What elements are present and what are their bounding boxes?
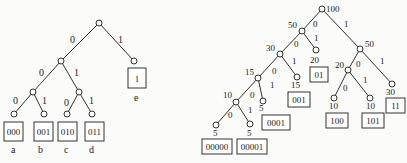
tree-node [277, 51, 283, 57]
edge-label: 1 [89, 95, 94, 106]
edge-label: 1 [42, 95, 47, 106]
weight-label: 100 [326, 4, 340, 14]
weight-label: 50 [288, 20, 298, 30]
edge-label: 0 [39, 67, 44, 78]
code-label: 100 [330, 116, 344, 126]
code-label: 00000 [206, 142, 229, 152]
code-label: 101 [366, 116, 380, 126]
tree-node [319, 6, 325, 12]
edge-label: 0 [313, 19, 318, 29]
tree-node [76, 89, 82, 95]
edge-label: 0 [356, 59, 361, 69]
edge-label: 1 [248, 105, 253, 115]
weight-label: 30 [386, 87, 396, 97]
tree-node [131, 58, 137, 64]
weight-label: 30 [266, 43, 276, 53]
weight-label: 15 [291, 80, 301, 90]
edge-label: 0 [294, 39, 299, 49]
weight-label: 20 [335, 60, 345, 70]
tree-node [299, 28, 305, 34]
edge-label: 0 [13, 95, 18, 106]
code-label: 0001 [267, 118, 285, 128]
weight-label: 5 [247, 128, 252, 138]
tree-node [89, 111, 95, 117]
tree-node [58, 58, 64, 64]
code-label: 001 [292, 95, 306, 105]
huffman-diagram: 0 1 0 1 0 1 0 1 000 a 001 b 010 c 011 d … [0, 0, 407, 163]
weight-label: 10 [366, 101, 376, 111]
edge-label: 1 [270, 80, 275, 90]
edge-label: 0 [228, 110, 233, 120]
tree-node [247, 121, 253, 127]
code-label: 00001 [241, 142, 264, 152]
tree-node [11, 111, 17, 117]
symbol-label: d [89, 144, 94, 155]
tree-node [313, 47, 319, 53]
edge-label: 0 [250, 90, 255, 100]
edge-label: 1 [118, 34, 123, 45]
edge-label: 0 [70, 34, 75, 45]
code-label: 11 [391, 101, 400, 111]
code-label: 011 [88, 127, 101, 137]
code-label: 010 [61, 127, 75, 137]
tree-node [30, 89, 36, 95]
tree-node [64, 111, 70, 117]
weight-label: 50 [365, 39, 375, 49]
code-label: 1 [135, 74, 140, 84]
symbol-label: b [38, 144, 43, 155]
weight-label: 10 [329, 101, 339, 111]
code-label: 001 [37, 127, 51, 137]
edge-label: 1 [344, 19, 349, 29]
edge-label: 0 [343, 83, 348, 93]
symbol-label: c [64, 144, 69, 155]
edge-label: 1 [74, 67, 79, 78]
left-tree: 0 1 0 1 0 1 0 1 000 a 001 b 010 c 011 d … [4, 20, 146, 155]
code-label: 000 [7, 127, 21, 137]
tree-node [357, 46, 363, 52]
edge-label: 0 [272, 66, 277, 76]
edge-label: 0 [64, 97, 69, 108]
symbol-label: e [134, 92, 139, 103]
code-label: 01 [315, 70, 324, 80]
weight-label: 20 [310, 55, 320, 65]
symbol-label: a [11, 144, 16, 155]
weight-label: 5 [213, 128, 218, 138]
edge-label: 1 [363, 75, 368, 85]
right-tree: 100 50 50 30 20 15 15 10 5 5 5 20 10 10 … [202, 4, 405, 154]
edge-label: 1 [292, 56, 297, 66]
tree-node [345, 67, 351, 73]
tree-node [233, 99, 239, 105]
tree-node [96, 20, 102, 26]
tree-node [41, 111, 47, 117]
weight-label: 5 [259, 103, 264, 113]
tree-node [255, 75, 261, 81]
edge-label: 1 [314, 33, 319, 43]
weight-label: 15 [245, 67, 255, 77]
weight-label: 10 [223, 90, 233, 100]
edge-label: 1 [380, 56, 385, 66]
